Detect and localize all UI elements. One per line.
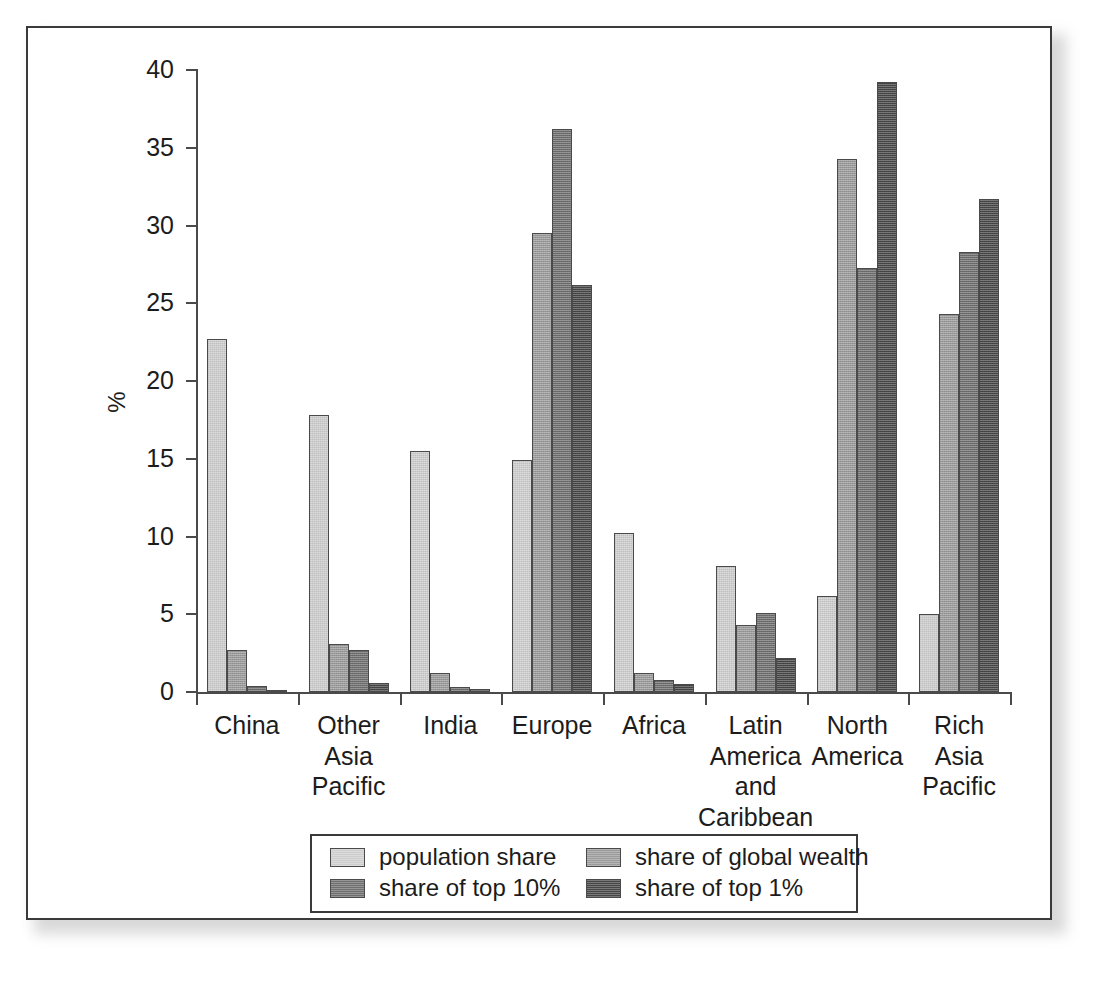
bar[interactable] (674, 684, 694, 692)
bar[interactable] (309, 415, 329, 692)
bar[interactable] (716, 566, 736, 692)
legend-label: share of top 10% (379, 876, 560, 900)
y-axis-tick-label: 0 (128, 679, 174, 704)
bar[interactable] (207, 339, 227, 692)
bar-group (716, 566, 796, 692)
y-axis-tick-label: 30 (128, 213, 174, 238)
figure-frame: % 0510152025303540 ChinaOther Asia Pacif… (26, 26, 1052, 920)
bar[interactable] (817, 596, 837, 692)
x-axis-tick (1010, 692, 1012, 705)
bar[interactable] (857, 268, 877, 693)
bar-group (919, 199, 999, 692)
legend-swatch-icon (586, 848, 621, 867)
bar-group (410, 451, 490, 692)
legend-entry-share-of-top-10[interactable]: share of top 10% (330, 876, 586, 900)
x-axis-tick (501, 692, 503, 705)
bar-group (309, 415, 389, 692)
y-axis-tick (186, 225, 198, 227)
bar-group (512, 129, 592, 692)
bar[interactable] (959, 252, 979, 692)
bar[interactable] (450, 687, 470, 692)
bar[interactable] (877, 82, 897, 692)
x-axis-tick (807, 692, 809, 705)
bar[interactable] (267, 690, 287, 692)
y-axis-tick (186, 536, 198, 538)
y-axis-tick-label: 20 (128, 368, 174, 393)
y-axis-tick-label: 5 (128, 601, 174, 626)
y-axis-title: % (103, 391, 131, 412)
y-axis-tick-label: 40 (128, 57, 174, 82)
x-axis-tick (298, 692, 300, 705)
y-axis-tick (186, 458, 198, 460)
legend-entry-share-of-top-1[interactable]: share of top 1% (586, 876, 842, 900)
legend-label: share of global wealth (635, 845, 868, 869)
page-caption (30, 942, 1060, 964)
scanned-page: % 0510152025303540 ChinaOther Asia Pacif… (0, 0, 1094, 986)
bar-group (614, 533, 694, 692)
y-axis-tick-label: 35 (128, 135, 174, 160)
bar-group (207, 339, 287, 692)
y-axis-tick-label: 10 (128, 524, 174, 549)
bar-chart-plot-area: % 0510152025303540 ChinaOther Asia Pacif… (28, 28, 1050, 918)
bar[interactable] (614, 533, 634, 692)
x-axis-tick (908, 692, 910, 705)
y-axis-tick (186, 147, 198, 149)
bar[interactable] (430, 673, 450, 692)
bar[interactable] (736, 625, 756, 692)
bar[interactable] (837, 159, 857, 692)
legend-swatch-icon (586, 879, 621, 898)
bar[interactable] (410, 451, 430, 692)
legend-swatch-icon (330, 879, 365, 898)
bar[interactable] (776, 658, 796, 692)
legend-swatch-icon (330, 848, 365, 867)
legend-row: share of top 10% share of top 1% (330, 876, 842, 900)
legend-row: population share share of global wealth (330, 845, 842, 869)
x-axis-category-label: Rich Asia Pacific (898, 710, 1020, 802)
bar[interactable] (532, 233, 552, 692)
bar[interactable] (654, 680, 674, 692)
y-axis-tick-label: 15 (128, 446, 174, 471)
chart-legend: population share share of global wealth … (310, 834, 858, 913)
legend-entry-share-of-global-wealth[interactable]: share of global wealth (586, 845, 842, 869)
legend-label: share of top 1% (635, 876, 803, 900)
bar[interactable] (979, 199, 999, 692)
bar[interactable] (470, 689, 490, 692)
bar[interactable] (756, 613, 776, 692)
x-axis-tick (603, 692, 605, 705)
legend-label: population share (379, 845, 556, 869)
bar[interactable] (247, 686, 267, 692)
bar[interactable] (552, 129, 572, 692)
bar[interactable] (369, 683, 389, 692)
y-axis-tick (186, 302, 198, 304)
x-axis-tick (196, 692, 198, 705)
bar[interactable] (572, 285, 592, 692)
x-axis-tick (400, 692, 402, 705)
bar[interactable] (329, 644, 349, 692)
y-axis-tick (186, 69, 198, 71)
bar[interactable] (939, 314, 959, 692)
bar[interactable] (634, 673, 654, 692)
y-axis-tick (186, 380, 198, 382)
bar[interactable] (512, 460, 532, 692)
x-axis-tick (705, 692, 707, 705)
bar[interactable] (919, 614, 939, 692)
y-axis-tick-label: 25 (128, 290, 174, 315)
y-axis-tick (186, 613, 198, 615)
bar[interactable] (349, 650, 369, 692)
legend-entry-population-share[interactable]: population share (330, 845, 586, 869)
bar-group (817, 82, 897, 692)
bar[interactable] (227, 650, 247, 692)
